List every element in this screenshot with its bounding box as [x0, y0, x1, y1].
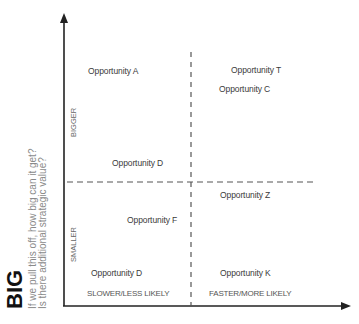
opportunity-k: Opportunity K	[220, 268, 271, 278]
opportunity-f: Opportunity F	[127, 215, 177, 225]
x-label-faster: FASTER/MORE LIKELY	[209, 289, 292, 298]
x-label-slower: SLOWER/LESS LIKELY	[87, 289, 170, 298]
y-label-smaller: SMALLER	[69, 227, 78, 262]
y-axis-subtitle-line2: Is there additional strategic value?	[38, 157, 48, 309]
quadrant-axes	[0, 0, 359, 324]
y-axis-title: BIG	[4, 270, 26, 309]
opportunity-c: Opportunity C	[219, 84, 270, 94]
opportunity-d-top: Opportunity D	[112, 158, 163, 168]
y-label-bigger: BIGGER	[69, 108, 78, 137]
opportunity-z: Opportunity Z	[220, 190, 270, 200]
opportunity-t: Opportunity T	[231, 65, 281, 75]
x-axis-arrow-icon	[341, 302, 351, 310]
opportunity-a: Opportunity A	[88, 66, 138, 76]
y-axis-arrow-icon	[60, 13, 68, 23]
opportunity-d-bottom: Opportunity D	[91, 268, 142, 278]
